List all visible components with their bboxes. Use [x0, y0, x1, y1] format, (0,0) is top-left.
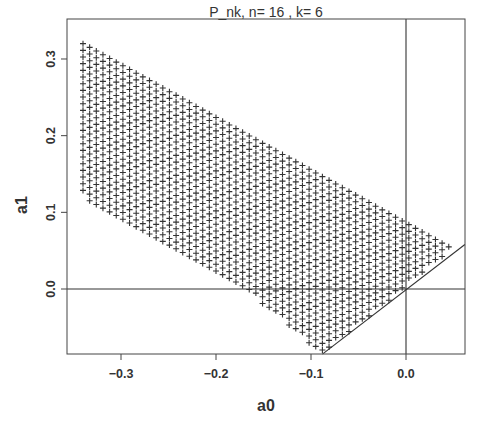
y-tick-label: 0.3 [44, 50, 58, 67]
y-tick-label: 0.0 [44, 280, 58, 297]
y-axis: 0.00.10.20.3 [44, 50, 67, 297]
chart-title: P_nk, n= 16 , k= 6 [209, 4, 323, 20]
y-axis-label: a1 [13, 196, 30, 214]
x-tick-label: −0.1 [299, 367, 324, 381]
x-tick-label: 0.0 [397, 367, 414, 381]
x-axis-label: a0 [257, 397, 275, 414]
x-axis: −0.3−0.2−0.10.0 [109, 354, 415, 381]
x-tick-label: −0.2 [204, 367, 229, 381]
scatter-chart: P_nk, n= 16 , k= 6 −0.3−0.2−0.10.0 0.00.… [0, 0, 489, 431]
x-tick-label: −0.3 [109, 367, 134, 381]
y-tick-label: 0.2 [44, 127, 58, 144]
y-tick-label: 0.1 [44, 204, 58, 221]
lattice-points [80, 41, 452, 353]
